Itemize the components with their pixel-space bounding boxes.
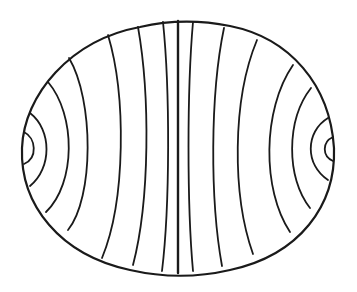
field-line-right-arc-4 (269, 65, 293, 232)
field-line-line-5 (102, 35, 121, 258)
field-line-right-inner-arc (325, 137, 333, 161)
field-line-line-9 (189, 22, 194, 271)
field-line-line-11 (238, 40, 257, 254)
diagram-canvas (0, 0, 357, 292)
field-lines-diagram (0, 0, 357, 292)
field-line-line-7 (162, 22, 168, 271)
field-line-right-arc-3 (292, 88, 311, 208)
field-line-left-arc-4 (68, 58, 88, 230)
field-line-line-6 (133, 27, 146, 265)
field-line-left-arc-2 (30, 113, 47, 186)
field-line-line-10 (213, 28, 224, 266)
field-line-left-arc-3 (46, 82, 69, 212)
field-line-left-inner-arc (24, 132, 34, 164)
